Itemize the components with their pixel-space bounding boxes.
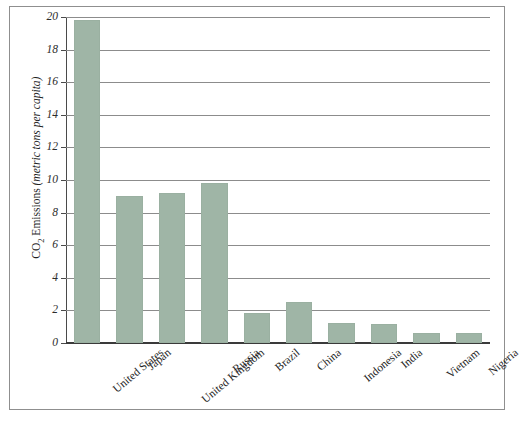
bar-japan: [116, 196, 142, 343]
y-tick-mark-0: [61, 343, 66, 344]
bar-vietnam: [413, 333, 439, 343]
plot-area: [66, 17, 490, 343]
gridline-14: [66, 115, 490, 116]
x-tick-label-brazil: Brazil: [272, 346, 301, 373]
y-axis-title: CO2 Emissions (metric tons per capita): [30, 18, 45, 318]
bar-nigeria: [456, 333, 482, 343]
gridline-16: [66, 82, 490, 83]
y-tick-mark-12: [61, 147, 66, 148]
bar-russia: [201, 183, 227, 343]
bar-united-states: [74, 20, 100, 343]
gridline-12: [66, 147, 490, 148]
x-tick-label-india: India: [399, 346, 425, 370]
y-tick-mark-6: [61, 245, 66, 246]
x-tick-label-indonesia: Indonesia: [361, 346, 403, 384]
x-axis-tick-labels: United StatesJapanUnited KingdomRussiaBr…: [66, 346, 490, 438]
y-axis-title-subscript: 2: [36, 239, 46, 243]
y-tick-mark-2: [61, 310, 66, 311]
y-axis-title-unit: (metric tons per capita): [30, 77, 42, 186]
bar-united-kingdom: [159, 193, 185, 343]
co2-emissions-bar-chart: 02468101214161820 CO2 Emissions (metric …: [0, 0, 524, 440]
y-tick-mark-18: [61, 50, 66, 51]
gridline-10: [66, 180, 490, 181]
x-tick-label-china: China: [315, 346, 344, 373]
y-axis-title-prefix: CO: [30, 243, 42, 259]
bar-china: [286, 302, 312, 343]
y-tick-mark-14: [61, 115, 66, 116]
y-axis-title-middle: Emissions: [30, 185, 42, 238]
x-tick-label-japan: Japan: [145, 346, 173, 372]
y-tick-label-0: 0: [18, 336, 58, 348]
y-tick-mark-10: [61, 180, 66, 181]
y-tick-mark-8: [61, 213, 66, 214]
gridline-20: [66, 17, 490, 18]
bar-indonesia: [328, 323, 354, 343]
y-tick-mark-16: [61, 82, 66, 83]
gridline-18: [66, 50, 490, 51]
bar-india: [371, 324, 397, 343]
x-tick-label-vietnam: Vietnam: [444, 346, 482, 380]
bar-brazil: [244, 313, 270, 343]
y-tick-mark-4: [61, 278, 66, 279]
x-tick-label-nigeria: Nigeria: [486, 346, 520, 377]
y-tick-mark-20: [61, 17, 66, 18]
